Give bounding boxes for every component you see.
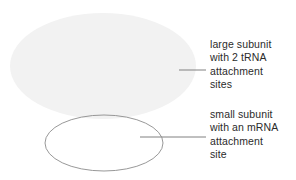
large-subunit-shape <box>10 13 196 119</box>
large-subunit-label-line1: large subunit <box>210 38 271 51</box>
ribosome-diagram: large subunit with 2 tRNA attachment sit… <box>0 0 296 180</box>
small-subunit-label-line3: attachment <box>210 135 278 148</box>
small-subunit-label: small subunit with an mRNA attachment si… <box>210 108 278 162</box>
small-subunit-label-line2: with an mRNA <box>210 121 278 134</box>
small-subunit-label-line4: site <box>210 148 278 161</box>
large-subunit-label: large subunit with 2 tRNA attachment sit… <box>210 38 271 92</box>
large-subunit-label-line4: sites <box>210 78 271 91</box>
large-subunit-label-line2: with 2 tRNA <box>210 51 271 64</box>
small-subunit-label-line1: small subunit <box>210 108 278 121</box>
large-subunit-label-line3: attachment <box>210 65 271 78</box>
small-subunit-shape <box>45 115 163 171</box>
